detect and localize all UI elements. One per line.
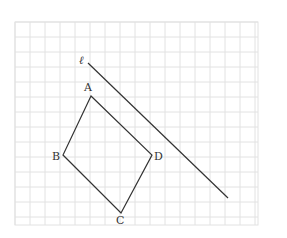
vertex-label-c: C (116, 214, 124, 227)
line-l (88, 63, 228, 198)
grid-background (15, 22, 258, 225)
vertex-label-d: D (154, 150, 163, 163)
geometry-figure: ℓ A D C B (0, 0, 287, 238)
vertex-label-a: A (83, 81, 93, 94)
vertex-label-b: B (52, 150, 60, 163)
quadrilateral-abcd (63, 96, 152, 213)
line-l-label: ℓ (79, 54, 84, 67)
